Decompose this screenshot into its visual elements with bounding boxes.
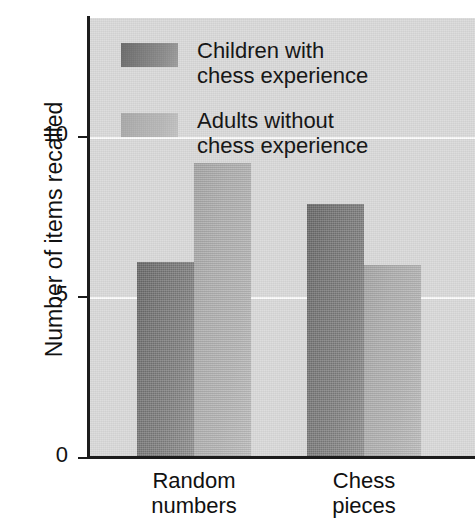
legend-label-children: Children withchess experience xyxy=(197,38,368,88)
cat1-line1: Chess xyxy=(333,468,395,493)
x-axis-line xyxy=(87,456,475,459)
y-tick-label-0: 0 xyxy=(10,444,68,466)
legend-children-line1: Children with xyxy=(197,38,324,63)
y-axis-line xyxy=(87,16,90,459)
bar-children-random-numbers xyxy=(137,262,194,458)
y-axis-title: Number of items recalled xyxy=(41,30,68,430)
legend-adults-line1: Adults without xyxy=(197,108,334,133)
legend-children-line2: chess experience xyxy=(197,63,368,88)
y-tick-mark-0 xyxy=(78,457,89,459)
cat0-line2: numbers xyxy=(151,493,237,518)
x-category-label-random-numbers: Random numbers xyxy=(137,468,251,518)
cat1-line2: pieces xyxy=(332,493,396,518)
plot-area: Children withchess experience Adults wit… xyxy=(89,18,475,458)
chart-legend: Children withchess experience Adults wit… xyxy=(121,38,368,171)
light-gray-swatch-icon xyxy=(121,113,178,137)
bar-adults-random-numbers xyxy=(194,163,251,458)
bar-chart-figure: Children withchess experience Adults wit… xyxy=(0,0,475,520)
legend-entry-adults: Adults withoutchess experience xyxy=(121,108,368,158)
dark-gray-swatch-icon xyxy=(121,43,178,67)
y-tick-mark-5 xyxy=(78,296,89,298)
legend-label-adults: Adults withoutchess experience xyxy=(197,108,368,158)
bar-adults-chess-pieces xyxy=(364,265,421,458)
x-category-label-chess-pieces: Chess pieces xyxy=(307,468,421,518)
legend-entry-children: Children withchess experience xyxy=(121,38,368,88)
cat0-line1: Random xyxy=(152,468,235,493)
legend-adults-line2: chess experience xyxy=(197,133,368,158)
y-tick-mark-10 xyxy=(78,136,89,138)
bar-children-chess-pieces xyxy=(307,204,364,458)
